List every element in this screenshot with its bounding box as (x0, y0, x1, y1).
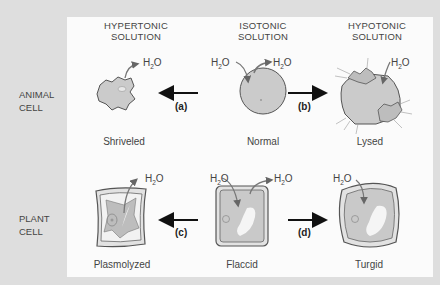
water-label: H2O (333, 173, 352, 186)
water-label: H2O (143, 57, 162, 70)
plasmolyzed-cell-icon (96, 180, 146, 247)
turgid-cell-icon (339, 180, 399, 247)
caption-shriveled: Shriveled (84, 136, 164, 147)
shriveled-cell-icon (97, 64, 137, 110)
water-label: H2O (274, 173, 293, 186)
caption-turgid: Turgid (329, 259, 409, 270)
flaccid-cell-icon (216, 178, 271, 246)
water-label: H2O (211, 57, 230, 70)
water-label: H2O (210, 173, 229, 186)
water-label: H2O (145, 173, 164, 186)
caption-normal: Normal (223, 136, 303, 147)
water-label: H2O (273, 57, 292, 70)
caption-plasmolyzed: Plasmolyzed (82, 259, 162, 270)
step-label-c: (c) (175, 227, 187, 238)
step-label-d: (d) (298, 227, 311, 238)
caption-lysed: Lysed (330, 136, 410, 147)
step-label-b: (b) (298, 101, 311, 112)
caption-flaccid: Flaccid (202, 259, 282, 270)
step-label-a: (a) (175, 101, 187, 112)
water-label: H2O (391, 57, 410, 70)
